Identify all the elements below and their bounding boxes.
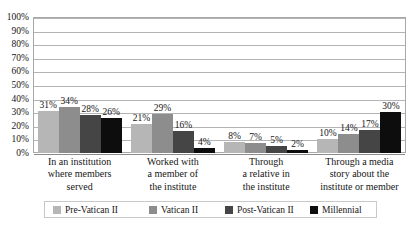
x-axis-category-label: Througha relative inthe institute: [220, 156, 313, 193]
legend-item[interactable]: Vatican II: [149, 205, 198, 215]
x-axis-category-label: In an institutionwhere membersserved: [33, 156, 126, 193]
category-label-line: served: [33, 181, 126, 193]
category-label-line: where members: [33, 168, 126, 180]
gridline: [34, 154, 405, 155]
y-axis-tick-label: 70%: [0, 53, 29, 63]
bar: [152, 114, 173, 153]
legend-swatch-icon: [225, 206, 233, 214]
bar: [59, 107, 80, 153]
bar: [80, 115, 101, 153]
legend-swatch-icon: [53, 206, 61, 214]
bar: [101, 118, 122, 153]
legend-label: Millennial: [322, 205, 362, 215]
bar: [224, 142, 245, 153]
legend-swatch-icon: [149, 206, 157, 214]
category-label-line: Worked with: [126, 156, 219, 168]
category-label-line: Through: [220, 156, 313, 168]
y-axis-tick-label: 10%: [0, 134, 29, 144]
bar: [359, 130, 380, 153]
bar-chart: 0%10%20%30%40%50%60%70%80%90%100% 31%34%…: [0, 0, 417, 226]
bar: [245, 143, 266, 153]
bar: [287, 150, 308, 153]
bars-layer: 31%34%28%26%21%29%16%4%8%7%5%2%10%14%17%…: [33, 17, 406, 153]
x-axis-category-label: Through a mediastory about theinstitute …: [313, 156, 406, 193]
legend-swatch-icon: [310, 206, 318, 214]
x-axis-categories: In an institutionwhere membersservedWork…: [33, 156, 406, 196]
x-axis-category-label: Worked witha member ofthe institute: [126, 156, 219, 193]
y-axis-tick-label: 30%: [0, 107, 29, 117]
category-label-line: a member of: [126, 168, 219, 180]
bar-group: [131, 17, 215, 153]
bar: [317, 139, 338, 153]
category-label-line: Through a media: [313, 156, 406, 168]
y-axis-tick-label: 40%: [0, 94, 29, 104]
legend-item[interactable]: Pre-Vatican II: [53, 205, 118, 215]
legend: Pre-Vatican IIVatican IIPost-Vatican IIM…: [44, 201, 377, 218]
legend-label: Post-Vatican II: [237, 205, 294, 215]
category-label-line: institute or member: [313, 181, 406, 193]
category-label-line: the institute: [220, 181, 313, 193]
legend-item[interactable]: Millennial: [310, 205, 362, 215]
y-axis-tick-label: 80%: [0, 39, 29, 49]
bar: [38, 111, 59, 153]
bar: [338, 134, 359, 153]
bar-group: [317, 17, 401, 153]
y-axis-tick-label: 90%: [0, 26, 29, 36]
bar-group: [224, 17, 308, 153]
bar-group: [38, 17, 122, 153]
category-label-line: story about the: [313, 168, 406, 180]
y-axis-tick-label: 20%: [0, 121, 29, 131]
legend-label: Pre-Vatican II: [65, 205, 118, 215]
y-axis-tick-label: 100%: [0, 12, 29, 22]
bar: [380, 112, 401, 153]
bar: [194, 148, 215, 153]
bar: [266, 146, 287, 153]
bar: [173, 131, 194, 153]
category-label-line: In an institution: [33, 156, 126, 168]
y-axis-tick-label: 0%: [0, 148, 29, 158]
legend-item[interactable]: Post-Vatican II: [225, 205, 294, 215]
y-axis-tick-label: 50%: [0, 80, 29, 90]
y-axis-tick-label: 60%: [0, 66, 29, 76]
bar: [131, 124, 152, 153]
category-label-line: the institute: [126, 181, 219, 193]
legend-label: Vatican II: [161, 205, 198, 215]
category-label-line: a relative in: [220, 168, 313, 180]
